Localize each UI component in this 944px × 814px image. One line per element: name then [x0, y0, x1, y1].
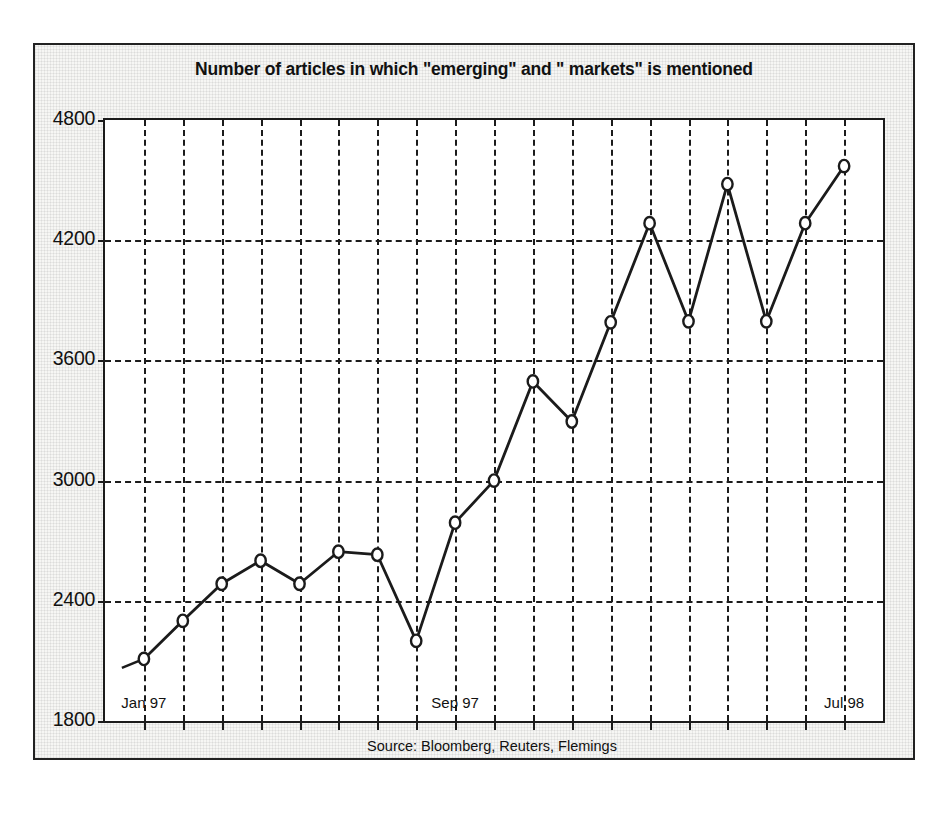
y-tick-mark [98, 601, 105, 603]
y-axis: 480042003600300024001800 [0, 0, 103, 814]
data-point-marker[interactable] [333, 546, 343, 558]
x-tick-mark [377, 721, 379, 730]
data-point-marker[interactable] [761, 315, 771, 327]
y-tick-mark [98, 360, 105, 362]
source-note: Source: Bloomberg, Reuters, Flemings [103, 738, 881, 754]
y-tick-mark [98, 120, 105, 122]
x-axis-tick-label: Sep 97 [431, 694, 479, 711]
x-tick-mark [533, 721, 535, 730]
x-tick-mark [455, 721, 457, 730]
data-point-marker[interactable] [411, 635, 421, 647]
data-point-marker[interactable] [255, 555, 265, 567]
x-axis-tick-label: Jan 97 [121, 694, 166, 711]
x-tick-mark [183, 721, 185, 730]
x-tick-mark [572, 721, 574, 730]
y-tick-mark [98, 240, 105, 242]
x-tick-mark [650, 721, 652, 730]
data-series-line [105, 120, 883, 721]
x-tick-mark [416, 721, 418, 730]
series-line [144, 166, 844, 659]
x-tick-mark [144, 721, 146, 730]
data-point-marker[interactable] [722, 178, 732, 190]
x-tick-mark [338, 721, 340, 730]
y-axis-tick-label: 2400 [53, 587, 95, 610]
data-point-marker[interactable] [139, 653, 149, 665]
data-point-marker[interactable] [217, 578, 227, 590]
y-tick-mark [98, 721, 105, 723]
data-point-marker[interactable] [800, 217, 810, 229]
data-point-marker[interactable] [567, 415, 577, 427]
y-axis-tick-label: 1800 [53, 708, 95, 731]
y-axis-tick-label: 3000 [53, 467, 95, 490]
x-tick-mark [766, 721, 768, 730]
data-point-marker[interactable] [839, 160, 849, 172]
data-point-marker[interactable] [294, 578, 304, 590]
y-axis-tick-label: 4200 [53, 227, 95, 250]
data-point-marker[interactable] [178, 615, 188, 627]
x-tick-mark [300, 721, 302, 730]
y-axis-tick-label: 3600 [53, 347, 95, 370]
x-tick-mark [805, 721, 807, 730]
x-tick-mark [844, 721, 846, 730]
x-tick-mark [494, 721, 496, 730]
x-tick-mark [727, 721, 729, 730]
plot-area: Jan 97Sep 97Jul 98 [103, 118, 885, 723]
data-point-marker[interactable] [372, 549, 382, 561]
chart-title: Number of articles in which "emerging" a… [35, 59, 913, 80]
data-point-marker[interactable] [528, 375, 538, 387]
data-point-marker[interactable] [683, 315, 693, 327]
x-tick-mark [689, 721, 691, 730]
x-tick-mark [611, 721, 613, 730]
data-point-marker[interactable] [450, 516, 460, 528]
data-point-marker[interactable] [606, 316, 616, 328]
data-point-marker[interactable] [489, 474, 499, 486]
data-point-marker[interactable] [644, 217, 654, 229]
x-tick-mark [222, 721, 224, 730]
x-axis-tick-label: Jul 98 [824, 694, 864, 711]
y-tick-mark [98, 481, 105, 483]
chart-page: Number of articles in which "emerging" a… [0, 0, 944, 814]
x-tick-mark [261, 721, 263, 730]
y-axis-tick-label: 4800 [53, 107, 95, 130]
